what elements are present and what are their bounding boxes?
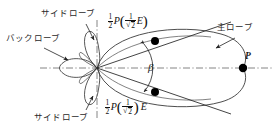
label-side-lobe-bottom: サイドローブ — [34, 113, 88, 122]
formula-top-coef-den: 2 — [108, 21, 114, 30]
formula-top-inner-fraction: 1 2 — [125, 13, 136, 30]
figure-canvas: サイドローブ バックローブ サイドローブ 主ローブ 1 2 P( 1 2 E) … — [0, 0, 280, 133]
formula-top-radicand: 2 — [131, 21, 135, 30]
label-beam-angle: β — [148, 62, 153, 73]
half-power-point-lower-marker — [151, 88, 159, 96]
formula-bottom-inner-fraction: 1 2 — [122, 99, 133, 116]
formula-half-power-top: 1 2 P( 1 2 E) — [107, 13, 148, 30]
label-field-point-P: P — [245, 52, 251, 62]
formula-bottom-coef-den: 2 — [105, 107, 111, 116]
formula-top-coef-num: 1 — [108, 13, 114, 21]
formula-top-coefficient: 1 2 — [108, 13, 114, 29]
half-power-point-upper-marker — [151, 37, 159, 45]
label-side-lobe-top: サイドローブ — [41, 9, 95, 18]
formula-bottom-coefficient: 1 2 — [105, 99, 111, 115]
formula-bottom-paren-close: ) — [134, 100, 139, 115]
formula-top-paren-open: ( — [120, 14, 125, 29]
label-back-lobe: バックローブ — [6, 34, 60, 43]
formula-bottom-paren-open: ( — [117, 100, 122, 115]
leader-lines — [44, 24, 235, 110]
formula-bottom-radicand: 2 — [128, 107, 132, 116]
formula-bottom-field: E — [141, 101, 147, 112]
formula-top-inner-den: 2 — [125, 20, 136, 30]
label-main-lobe: 主ローブ — [217, 23, 253, 32]
formula-top-paren-close: ) — [143, 14, 148, 29]
field-point-marker — [239, 64, 247, 72]
formula-bottom-coef-num: 1 — [105, 99, 111, 107]
formula-half-power-bottom: 1 2 P( 1 2 )E — [104, 99, 147, 116]
formula-bottom-inner-den: 2 — [122, 106, 133, 116]
